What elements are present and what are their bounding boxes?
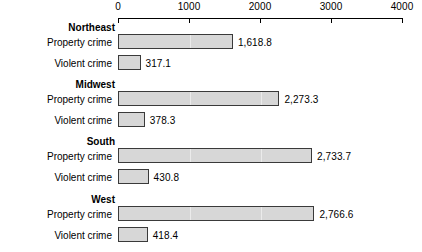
row-category-label: Violent crime xyxy=(0,172,112,183)
bar xyxy=(118,112,145,127)
bar-value-label: 1,618.8 xyxy=(238,37,272,48)
x-axis-tick-label: 2000 xyxy=(249,1,272,12)
bar-value-label: 2,273.3 xyxy=(284,94,318,105)
region-group-header: Midwest xyxy=(0,79,115,90)
row-category-label: Property crime xyxy=(0,37,112,48)
bar xyxy=(118,34,233,49)
x-axis-tick-mark xyxy=(118,18,119,23)
bar xyxy=(118,148,312,163)
chart-row: Violent crime317.1 xyxy=(0,55,422,72)
bar-value-label: 2,733.7 xyxy=(317,151,351,162)
bar-value-label: 2,766.6 xyxy=(319,209,353,220)
chart-row: Violent crime430.8 xyxy=(0,169,422,186)
bar-gridline xyxy=(261,92,262,105)
bar xyxy=(118,169,149,184)
chart-row: Property crime2,766.6 xyxy=(0,206,422,223)
bar-value-label: 317.1 xyxy=(146,58,172,69)
bar xyxy=(118,55,141,70)
x-axis-tick-mark xyxy=(189,18,190,23)
x-axis-tick-mark xyxy=(402,18,403,23)
chart-row: Violent crime378.3 xyxy=(0,112,422,129)
regional-crime-rate-bar-chart: 01000200030004000 NortheastProperty crim… xyxy=(0,0,422,252)
x-axis-tick-label: 0 xyxy=(115,1,121,12)
bar-gridline xyxy=(190,207,191,220)
chart-row: Property crime2,273.3 xyxy=(0,91,422,108)
bar-value-label: 430.8 xyxy=(154,172,180,183)
region-group-header: Northeast xyxy=(0,22,115,33)
bar-gridline xyxy=(261,149,262,162)
chart-row: Violent crime418.4 xyxy=(0,227,422,244)
row-category-label: Property crime xyxy=(0,94,112,105)
bar-gridline xyxy=(261,207,262,220)
x-axis-tick-mark xyxy=(260,18,261,23)
bar-gridline xyxy=(190,35,191,48)
row-category-label: Property crime xyxy=(0,209,112,220)
chart-row: Property crime1,618.8 xyxy=(0,34,422,51)
x-axis-tick-label: 3000 xyxy=(320,1,343,12)
row-category-label: Property crime xyxy=(0,151,112,162)
x-axis-tick-label: 1000 xyxy=(178,1,201,12)
chart-row: Property crime2,733.7 xyxy=(0,148,422,165)
bar-gridline xyxy=(190,92,191,105)
bar-value-label: 378.3 xyxy=(150,115,176,126)
bar-value-label: 418.4 xyxy=(153,230,179,241)
bar xyxy=(118,206,314,221)
bar xyxy=(118,227,148,242)
x-axis-tick-mark xyxy=(331,18,332,23)
row-category-label: Violent crime xyxy=(0,230,112,241)
bar-gridline xyxy=(190,149,191,162)
region-group-header: West xyxy=(0,194,115,205)
bar xyxy=(118,91,279,106)
row-category-label: Violent crime xyxy=(0,58,112,69)
row-category-label: Violent crime xyxy=(0,115,112,126)
x-axis-tick-label: 4000 xyxy=(391,1,414,12)
region-group-header: South xyxy=(0,136,115,147)
